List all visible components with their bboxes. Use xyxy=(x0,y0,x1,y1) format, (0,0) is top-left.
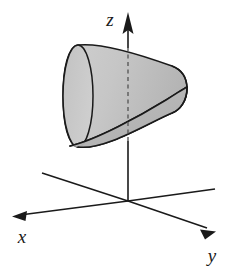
y-axis-label: y xyxy=(206,245,217,266)
y-axis-front-arm xyxy=(128,201,207,228)
z-axis-label: z xyxy=(105,9,114,30)
figure-root: x y z xyxy=(0,0,251,275)
y-axis xyxy=(42,173,216,240)
cone-solid xyxy=(63,45,187,148)
y-axis-arrowhead xyxy=(200,230,216,240)
x-axis-arrowhead xyxy=(12,211,27,221)
z-axis-upper xyxy=(123,12,134,48)
y-axis-back-arm xyxy=(42,173,128,201)
x-axis-front-arm xyxy=(20,201,128,215)
cone-base-ellipse xyxy=(63,45,93,147)
x-axis xyxy=(12,189,215,221)
x-axis-back-arm xyxy=(128,189,215,201)
coordinate-system-figure: x y z xyxy=(0,0,251,275)
x-axis-label: x xyxy=(17,226,27,247)
